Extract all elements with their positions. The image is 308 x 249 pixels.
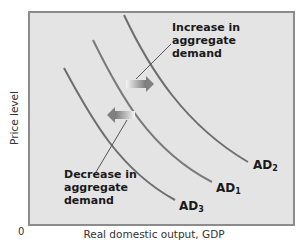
chart-canvas xyxy=(0,0,308,249)
decrease-line-1: Decrease in xyxy=(64,168,137,181)
ad3-label: AD3 xyxy=(179,199,204,214)
decrease-line-3: demand xyxy=(64,194,137,207)
ad3-label-sub: 3 xyxy=(198,205,204,214)
increase-line-1: Increase in xyxy=(172,21,240,34)
increase-line-3: demand xyxy=(172,47,240,60)
increase-annotation: Increase in aggregate demand xyxy=(172,21,240,60)
x-axis-label: Real domestic output, GDP xyxy=(0,228,308,240)
decrease-line-2: aggregate xyxy=(64,181,137,194)
ad1-label: AD1 xyxy=(216,181,241,196)
ad2-label: AD2 xyxy=(253,158,278,173)
ad1-label-sub: 1 xyxy=(235,187,241,196)
y-axis-label: Price level xyxy=(8,78,20,158)
increase-line-2: aggregate xyxy=(172,34,240,47)
ad1-label-main: AD xyxy=(216,181,235,195)
decrease-annotation: Decrease in aggregate demand xyxy=(64,168,137,207)
ad3-label-main: AD xyxy=(179,199,198,213)
ad2-label-main: AD xyxy=(253,158,272,172)
ad2-label-sub: 2 xyxy=(272,164,278,173)
